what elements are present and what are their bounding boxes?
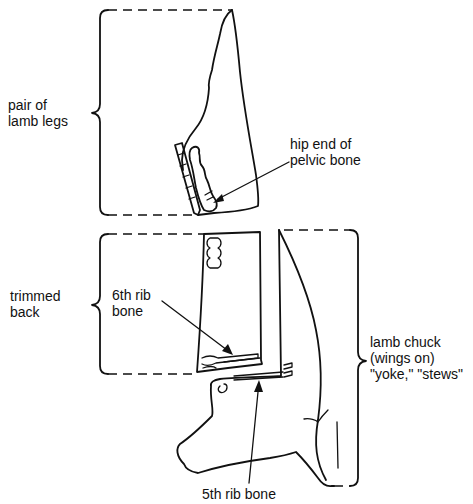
lamb-cuts-diagram: pair of lamb legs hip end of pelvic bone… <box>0 0 473 504</box>
label-6th-rib: 6th rib bone <box>112 287 151 319</box>
label-5th-rib: 5th rib bone <box>202 486 276 502</box>
legs-bracket <box>92 10 232 215</box>
label-pelvic-bone: hip end of pelvic bone <box>290 136 361 168</box>
diagram-drawing <box>0 0 473 504</box>
rib5-pointer <box>249 380 263 483</box>
label-lamb-chuck: lamb chuck (wings on) "yoke," "stews" <box>370 334 463 382</box>
pelvic-pointer <box>213 162 289 203</box>
rib6-pointer <box>162 301 233 355</box>
label-trimmed-back: trimmed back <box>10 288 61 320</box>
label-lamb-legs: pair of lamb legs <box>8 97 68 129</box>
